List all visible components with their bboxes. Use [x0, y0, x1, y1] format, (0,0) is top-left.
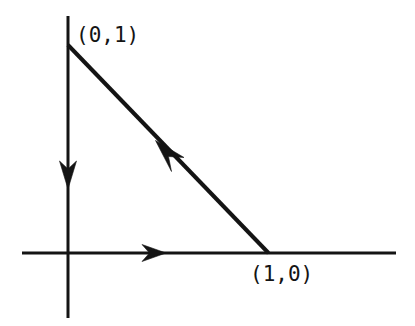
point-label-1-0: (1,0) — [250, 263, 313, 285]
point-label-0-1: (0,1) — [76, 24, 139, 46]
math-diagram-figure: (0,1) (1,0) — [0, 0, 415, 326]
segment-direction-arrow-icon — [156, 141, 185, 172]
diagram-canvas — [0, 0, 415, 326]
